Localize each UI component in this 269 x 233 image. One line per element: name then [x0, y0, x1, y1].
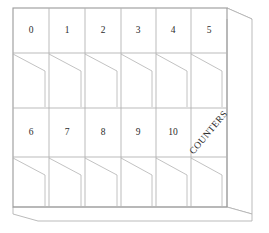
- cell-label-1: 1: [65, 25, 70, 35]
- cell-label-7: 7: [65, 127, 70, 137]
- cell-label-6: 6: [29, 127, 34, 137]
- cell-label-9: 9: [136, 127, 141, 137]
- counters-annotation-group: COUNTERS: [187, 109, 229, 156]
- shelf-diagonal-u3: [121, 54, 152, 71]
- base-plinth: [13, 207, 252, 221]
- cabinet-base: [13, 207, 252, 221]
- cell-label-2: 2: [101, 25, 106, 35]
- shelf-diagonal-u2: [85, 54, 117, 71]
- shelf-diagonal-l2: [85, 158, 117, 175]
- cell-labels-row-one: 0 1 2 3 4 5: [29, 25, 212, 35]
- column-dividers: [49, 8, 191, 207]
- counters-annotation-label: COUNTERS: [187, 109, 229, 156]
- shelf-diagonal-u4: [156, 54, 187, 71]
- cell-label-8: 8: [101, 127, 106, 137]
- shelf-diagonal-l1: [49, 158, 81, 175]
- cell-label-5: 5: [207, 25, 212, 35]
- cabinet-side-panel: [227, 8, 252, 214]
- shelf-diagonal-u0: [13, 54, 45, 71]
- cell-label-0: 0: [29, 25, 34, 35]
- shelf-diagonal-l5: [191, 158, 222, 175]
- cabinet-drawing: 0 1 2 3 4 5 6 7 8 9 10 COUNTERS: [0, 0, 269, 233]
- shelf-diagonal-l3: [121, 158, 152, 175]
- side-panel-face: [227, 8, 252, 214]
- cell-label-10: 10: [168, 127, 178, 137]
- shelf-diagonal-l4: [156, 158, 187, 175]
- counters-shelf-cabinet-figure: 0 1 2 3 4 5 6 7 8 9 10 COUNTERS: [0, 0, 269, 233]
- shelf-diagonal-u1: [49, 54, 81, 71]
- cell-label-3: 3: [136, 25, 141, 35]
- cell-label-4: 4: [171, 25, 176, 35]
- shelf-diagonal-l0: [13, 158, 45, 175]
- shelf-diagonal-u5: [191, 54, 222, 71]
